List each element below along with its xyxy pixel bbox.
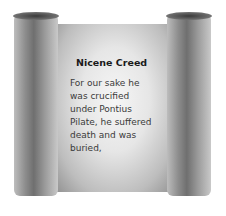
scroll-line: death and was	[70, 129, 170, 142]
scroll-illustration: Nicene Creed For our sake he was crucifi…	[0, 0, 226, 216]
scroll-roll-right	[167, 14, 211, 196]
scroll-line: buried,	[70, 142, 170, 155]
scroll-line: For our sake he	[70, 77, 170, 90]
scroll-line: under Pontius	[70, 103, 170, 116]
scroll-body: For our sake he was crucified under Pont…	[70, 77, 170, 155]
scroll-roll-left	[14, 14, 58, 196]
scroll-title: Nicene Creed	[76, 57, 147, 68]
scroll-line: Pilate, he suffered	[70, 116, 170, 129]
scroll-cap-left	[13, 12, 59, 20]
scroll-line: was crucified	[70, 90, 170, 103]
scroll-cap-right	[166, 12, 212, 20]
